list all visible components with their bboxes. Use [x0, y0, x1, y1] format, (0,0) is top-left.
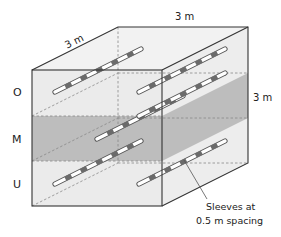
- sleeve: [211, 145, 217, 148]
- layer-label-u: U: [13, 178, 21, 191]
- sleeve: [107, 131, 113, 134]
- sleeve: [149, 176, 155, 179]
- annotation-line-1: Sleeves at: [206, 201, 256, 212]
- layer-label-o: O: [13, 86, 22, 99]
- sleeve: [196, 153, 202, 156]
- sleeve: [149, 108, 155, 111]
- sleeve: [112, 61, 118, 64]
- sleeve: [65, 176, 71, 179]
- soil-cube-diagram: 3 m 3 m 3 m O M U Sleeves at 0.5 m spaci…: [0, 0, 281, 237]
- sleeve: [96, 160, 102, 163]
- sleeve: [180, 68, 186, 71]
- sleeve: [180, 92, 186, 95]
- sleeve: [112, 153, 118, 156]
- annotation-line-2: 0.5 m spacing: [196, 215, 263, 226]
- sleeve: [211, 77, 217, 80]
- sleeve: [65, 84, 71, 87]
- sleeve: [196, 61, 202, 64]
- sleeve: [211, 53, 217, 56]
- sleeve: [123, 123, 129, 126]
- sleeve: [149, 84, 155, 87]
- sleeve: [81, 76, 87, 79]
- layer-label-m: M: [12, 133, 22, 146]
- width-dimension-label: 3 m: [175, 11, 194, 22]
- sleeve: [165, 100, 171, 103]
- sleeve: [165, 76, 171, 79]
- height-dimension-label: 3 m: [253, 92, 272, 103]
- sleeve: [165, 168, 171, 171]
- sleeve: [127, 53, 133, 56]
- sleeve: [196, 85, 202, 88]
- sleeve: [81, 168, 87, 171]
- sleeve: [127, 145, 133, 148]
